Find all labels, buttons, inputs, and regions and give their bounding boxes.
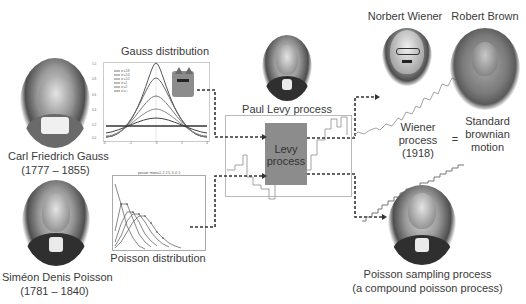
poisson-sampling-line1: Poisson sampling process: [355, 268, 500, 281]
wiener-name: Norbert Wiener: [355, 10, 455, 23]
wiener-line2: process: [388, 134, 448, 147]
poisson-sampling-line2: (a compound poisson process): [350, 282, 505, 295]
wiener-line3: (1918): [388, 147, 448, 160]
wiener-line1: Wiener: [388, 121, 448, 134]
brown-portrait: [450, 28, 520, 110]
brown-name: Robert Brown: [445, 10, 525, 23]
brownian-line1: Standard: [455, 115, 520, 128]
brownian-line3: motion: [455, 141, 520, 154]
brownian-line2: brownian: [455, 128, 520, 141]
poisson-sampling-portrait: [388, 185, 456, 265]
